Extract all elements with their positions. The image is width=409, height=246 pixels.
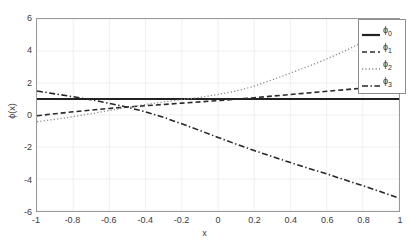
x-axis-title: x [0,228,409,238]
figure: 6420-2-4-6 -1-0.8-0.6-0.4-0.200.20.40.60… [0,0,409,246]
tick-labels: 6420-2-4-6 -1-0.8-0.6-0.4-0.200.20.40.60… [0,0,409,246]
x-tick-label: 0 [198,215,238,225]
legend-label: ϕ1 [383,42,392,54]
x-tick-label: -0.4 [125,215,165,225]
legend-line-sample [361,77,381,87]
y-tick-label: 4 [2,45,32,55]
x-tick-label: -0.8 [52,215,92,225]
legend-label: ϕ2 [383,59,392,71]
x-tick-label: -0.6 [89,215,129,225]
legend-item-2[interactable]: ϕ2 [361,56,403,73]
x-tick-label: 1 [380,215,409,225]
legend-label: ϕ0 [383,25,392,37]
legend-line-sample [361,60,381,70]
y-axis-title: ϕ(x) [7,81,17,141]
y-tick-label: -2 [2,142,32,152]
legend[interactable]: ϕ0ϕ1ϕ2ϕ3 [358,19,406,94]
legend-label: ϕ3 [383,76,392,88]
legend-item-3[interactable]: ϕ3 [361,73,403,90]
legend-line-sample [361,43,381,53]
x-tick-label: 0.6 [307,215,347,225]
x-tick-label: -1 [16,215,56,225]
x-tick-label: 0.4 [271,215,311,225]
x-tick-label: 0.8 [344,215,384,225]
x-tick-label: -0.2 [162,215,202,225]
legend-item-0[interactable]: ϕ0 [361,22,403,39]
legend-item-1[interactable]: ϕ1 [361,39,403,56]
x-tick-label: 0.2 [234,215,274,225]
y-tick-label: 6 [2,13,32,23]
legend-line-sample [361,26,381,36]
y-tick-label: -4 [2,175,32,185]
